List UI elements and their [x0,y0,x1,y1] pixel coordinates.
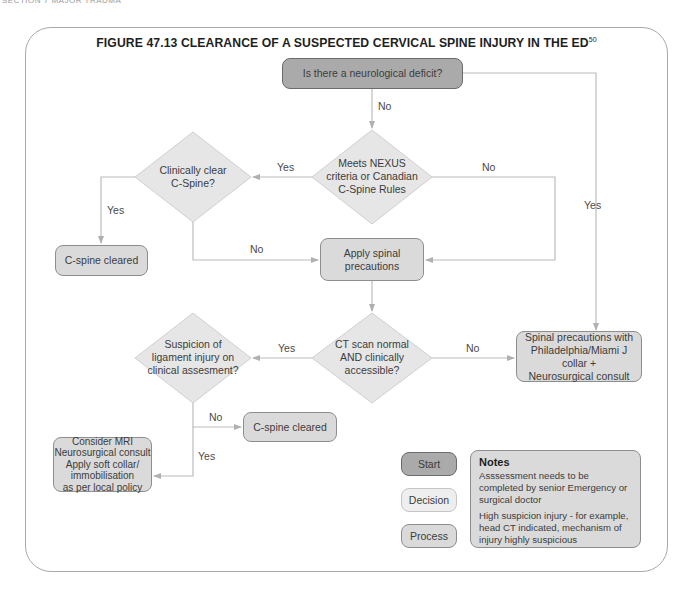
edge-suspicion-yes [154,427,193,476]
notes-title: Notes [479,456,632,468]
notes-box: Notes Asssessment needs to be completed … [470,450,641,548]
legend-process-label: Process [410,530,448,543]
process-consider-mri: Consider MRI Neurosurgical consult Apply… [53,437,152,492]
process-label: immobilisation [71,470,134,482]
process-cspine-cleared-2: C-spine cleared [243,412,337,442]
edge-label-nexus-no: No [482,161,495,173]
process-label: as per local policy [63,482,142,494]
decision-suspicion-line: clinical assesment? [138,364,248,377]
decision-suspicion-line: Suspicion of [138,338,248,351]
decision-ct-line: CT scan normal [317,338,427,351]
edge-label-neuro-no: No [378,100,391,112]
edge-nexus-no [426,177,555,260]
process-label: Spinal precautions with [525,331,633,344]
start-neurological-deficit: Is there a neurological deficit? [282,58,463,89]
notes-item: Asssessment needs to be completed by sen… [479,470,632,506]
edge-label-neuro-yes: Yes [584,199,601,211]
decision-nexus: Meets NEXUS criteria or Canadian C-Spine… [317,157,427,196]
decision-suspicion-line: ligament injury on [138,351,248,364]
decision-nexus-line: Meets NEXUS [317,157,427,170]
start-node-label: Is there a neurological deficit? [303,67,443,80]
process-label: Apply soft collar/ [66,459,139,471]
decision-ct-scan: CT scan normal AND clinically accessible… [317,338,427,377]
process-label: Apply spinal [344,247,401,260]
edge-neuro-yes [463,73,596,330]
decision-ct-line: AND clinically [317,351,427,364]
edge-label-suspicion-no: No [209,411,222,423]
decision-ct-line: accessible? [317,364,427,377]
legend-decision: Decision [401,488,457,512]
process-label: C-spine cleared [253,421,327,434]
edge-label-ct-no: No [466,342,479,354]
legend-process: Process [401,524,457,548]
notes-item: High suspicion injury - for example, hea… [479,510,632,546]
process-apply-spinal-precautions: Apply spinal precautions [320,238,424,281]
legend-start-label: Start [418,458,440,471]
process-label: Neurosurgical consult [54,447,150,459]
decision-clear-line: C-Spine? [143,177,243,190]
decision-suspicion: Suspicion of ligament injury on clinical… [138,338,248,377]
process-label: precautions [345,260,399,273]
process-label: Philadelphia/Miami J collar + [517,344,641,370]
edge-label-suspicion-yes: Yes [198,450,215,462]
decision-clinically-clear: Clinically clear C-Spine? [143,164,243,190]
legend-decision-label: Decision [409,494,449,507]
decision-nexus-line: criteria or Canadian [317,170,427,183]
process-label: Neurosurgical consult [529,370,630,383]
process-label: Consider MRI [72,436,133,448]
edge-label-clear-no: No [250,243,263,255]
process-spinal-precautions-collar: Spinal precautions with Philadelphia/Mia… [516,331,642,382]
edge-label-ct-yes: Yes [278,342,295,354]
decision-clear-line: Clinically clear [143,164,243,177]
process-label: C-spine cleared [65,254,139,267]
edge-label-clear-yes: Yes [107,204,124,216]
process-cspine-cleared-1: C-spine cleared [55,245,148,276]
decision-nexus-line: C-Spine Rules [317,183,427,196]
edge-label-nexus-yes: Yes [277,161,294,173]
legend-start: Start [401,452,457,476]
